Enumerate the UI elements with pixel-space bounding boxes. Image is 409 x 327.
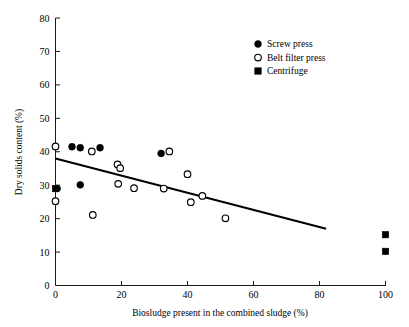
- data-point: [199, 193, 206, 200]
- data-point: [184, 171, 191, 178]
- data-point: [97, 144, 104, 151]
- data-point: [69, 143, 76, 150]
- chart-figure: 01020304050607080 020406080100 Screw pre…: [0, 0, 409, 327]
- y-tick-label: 20: [40, 213, 50, 224]
- axes: [56, 18, 387, 286]
- scatter-plot: 01020304050607080 020406080100 Screw pre…: [0, 0, 409, 327]
- data-point: [382, 231, 388, 237]
- data-point: [188, 199, 195, 206]
- data-point: [158, 150, 165, 157]
- trend-line-group: [56, 158, 327, 228]
- y-tick-label: 50: [40, 113, 50, 124]
- x-tick-label: 80: [315, 289, 325, 300]
- x-tick-label: 100: [378, 289, 393, 300]
- legend-marker-filled-square: [255, 68, 261, 74]
- data-point: [382, 248, 388, 254]
- data-point: [115, 181, 122, 188]
- legend-marker-filled-circle: [255, 41, 262, 48]
- data-point: [222, 215, 229, 222]
- chart-legend: Screw pressBelt filter pressCentrifuge: [255, 39, 326, 76]
- y-tick-label: 60: [40, 79, 50, 90]
- data-point: [52, 143, 59, 150]
- legend-item: Screw press: [255, 39, 313, 49]
- series-centrifuge: [52, 185, 388, 254]
- legend-item: Centrifuge: [255, 66, 308, 76]
- y-axis-ticks: 01020304050607080: [40, 13, 61, 292]
- y-tick-label: 0: [45, 280, 50, 291]
- trend-line: [56, 158, 327, 228]
- x-tick-label: 60: [249, 289, 259, 300]
- data-point: [54, 185, 61, 192]
- data-point: [166, 148, 173, 155]
- y-tick-label: 80: [40, 13, 50, 24]
- x-tick-label: 20: [117, 289, 127, 300]
- y-axis-title: Dry solids content (%): [14, 109, 25, 195]
- y-tick-label: 10: [40, 247, 50, 258]
- data-point: [160, 185, 167, 192]
- data-point: [77, 144, 84, 151]
- data-point: [77, 181, 84, 188]
- y-tick-label: 40: [40, 146, 50, 157]
- data-point: [89, 212, 96, 219]
- legend-label: Belt filter press: [267, 53, 326, 63]
- x-axis-title: Biosludge present in the combined sludge…: [132, 308, 308, 319]
- x-tick-label: 40: [183, 289, 193, 300]
- legend-label: Centrifuge: [267, 66, 308, 76]
- data-point: [89, 148, 96, 155]
- data-points-group: [52, 143, 388, 254]
- legend-marker-open-circle: [255, 54, 262, 61]
- data-point: [117, 165, 124, 172]
- legend-item: Belt filter press: [255, 53, 326, 63]
- legend-label: Screw press: [267, 39, 313, 49]
- data-point: [52, 198, 59, 205]
- series-screw-press: [54, 143, 165, 192]
- x-tick-label: 0: [53, 289, 58, 300]
- y-tick-label: 30: [40, 180, 50, 191]
- data-point: [131, 185, 138, 192]
- x-axis-ticks: 020406080100: [53, 281, 393, 300]
- y-tick-label: 70: [40, 46, 50, 57]
